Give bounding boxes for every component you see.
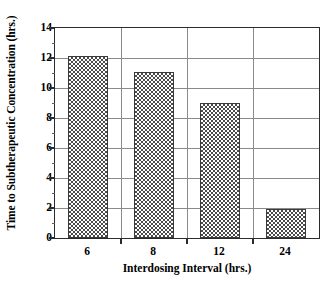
- y-tick-major: [49, 147, 55, 148]
- bar-6[interactable]: [68, 56, 108, 238]
- x-tick-label: 8: [120, 244, 186, 259]
- y-tick-major: [49, 207, 55, 208]
- y-tick-minor: [52, 43, 56, 44]
- y-axis-tick-labels: 02468101214: [22, 21, 52, 247]
- y-tick-minor: [52, 223, 56, 224]
- y-tick-label: 8: [22, 111, 52, 124]
- y-tick-major: [49, 87, 55, 88]
- y-tick-label: 0: [22, 231, 52, 244]
- bar-8[interactable]: [134, 72, 174, 238]
- y-tick-minor: [52, 133, 56, 134]
- y-tick-major: [49, 27, 55, 28]
- x-tick-label: 6: [54, 244, 120, 259]
- y-tick-major: [49, 117, 55, 118]
- x-axis-title: Interdosing Interval (hrs.): [54, 261, 320, 275]
- bar-24[interactable]: [266, 209, 306, 238]
- x-axis-tick-labels: 681224: [54, 244, 320, 260]
- x-tick-label: 12: [186, 244, 252, 259]
- y-tick-label: 14: [22, 21, 52, 34]
- y-tick-major: [49, 57, 55, 58]
- y-tick-minor: [52, 163, 56, 164]
- y-tick-label: 2: [22, 201, 52, 214]
- plot-area: [54, 27, 320, 239]
- y-tick-minor: [52, 193, 56, 194]
- bar-chart-figure: Time to Subtherapeutic Concentration (hr…: [0, 0, 336, 287]
- category-separator: [187, 28, 188, 238]
- y-tick-label: 4: [22, 171, 52, 184]
- y-tick-label: 12: [22, 51, 52, 64]
- category-separator: [253, 28, 254, 238]
- clipped-caption: [6, 279, 330, 286]
- y-axis-title: Time to Subtherapeutic Concentration (hr…: [2, 3, 20, 243]
- y-tick-minor: [52, 73, 56, 74]
- y-tick-minor: [52, 103, 56, 104]
- y-tick-major: [49, 237, 55, 238]
- x-tick-label: 24: [252, 244, 318, 259]
- y-tick-label: 10: [22, 81, 52, 94]
- category-separator: [121, 28, 122, 238]
- y-tick-major: [49, 177, 55, 178]
- y-tick-label: 6: [22, 141, 52, 154]
- bar-12[interactable]: [200, 103, 240, 238]
